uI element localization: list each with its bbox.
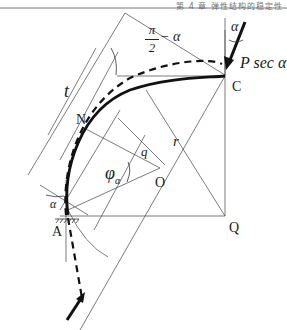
r-dimension-line <box>146 90 225 216</box>
angle-fraction: π 2 <box>145 22 159 56</box>
label-r: r <box>173 134 179 149</box>
label-c: C <box>232 80 241 94</box>
apex-to-c-line <box>125 13 225 75</box>
elastica-diagram: 第 4 章 弹性结构的稳定性 <box>0 0 287 330</box>
label-q-point: Q <box>229 221 239 235</box>
label-a: A <box>52 225 62 239</box>
angle-rest: − α <box>160 30 180 44</box>
label-t: t <box>64 82 69 100</box>
label-force: P sec α <box>240 55 286 71</box>
label-alpha-left: α <box>50 198 56 210</box>
label-q: q <box>141 145 148 158</box>
label-phi: φα <box>105 164 120 186</box>
label-alpha-top: α <box>231 20 238 34</box>
t-dimension-line <box>28 13 125 175</box>
dashed-extension <box>68 218 82 298</box>
n-o-line <box>84 128 160 168</box>
label-n: N <box>76 113 86 127</box>
construction-lines <box>28 13 225 330</box>
label-o: O <box>155 176 165 190</box>
support-hatch <box>55 219 79 223</box>
c-diagonal-line <box>80 76 225 330</box>
diagram-figure <box>0 0 287 330</box>
